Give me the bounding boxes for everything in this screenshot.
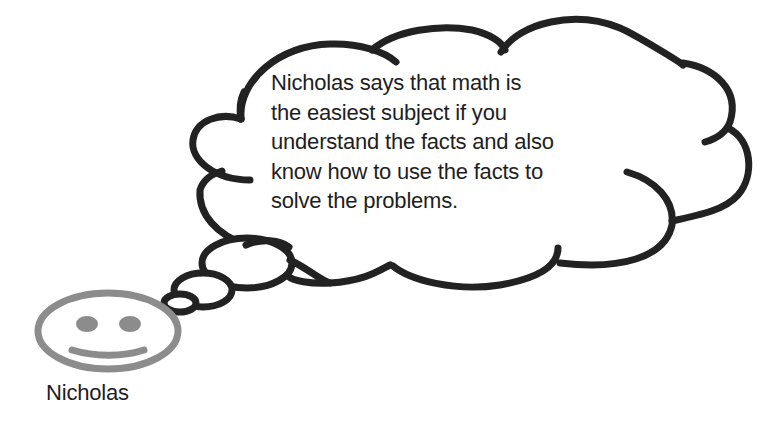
thought-trail-bubbles bbox=[164, 238, 292, 312]
thought-line-2: the easiest subject if you bbox=[271, 98, 651, 128]
thought-line-3: understand the facts and also bbox=[271, 127, 651, 157]
thought-line-1: Nicholas says that math is bbox=[271, 68, 651, 98]
thought-bubble-text: Nicholas says that math is the easiest s… bbox=[271, 68, 651, 216]
character-name-label: Nicholas bbox=[46, 380, 129, 406]
left-eye bbox=[76, 316, 98, 332]
thought-line-5: solve the problems. bbox=[271, 186, 651, 216]
thought-line-4: know how to use the facts to bbox=[271, 157, 651, 187]
right-eye bbox=[119, 316, 141, 332]
smiley-face-icon bbox=[38, 293, 178, 369]
mouth bbox=[72, 350, 144, 355]
